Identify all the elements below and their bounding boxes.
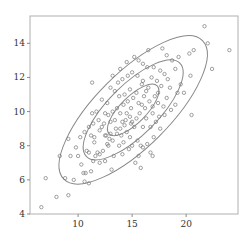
data-point <box>144 89 147 92</box>
data-point <box>128 88 131 91</box>
data-point <box>140 103 143 106</box>
data-point <box>177 55 180 58</box>
data-point <box>165 54 168 57</box>
data-point <box>69 154 72 157</box>
data-point <box>130 71 133 74</box>
data-point <box>141 79 144 82</box>
data-point <box>124 118 127 121</box>
y-tick-label: 8 <box>19 141 25 151</box>
data-point <box>121 120 124 123</box>
y-tick-label: 12 <box>14 72 25 82</box>
data-point <box>117 144 120 147</box>
data-point <box>188 52 191 55</box>
data-point <box>141 62 144 65</box>
data-point <box>135 91 138 94</box>
data-point <box>138 112 141 115</box>
data-point <box>113 118 116 121</box>
data-point <box>174 103 177 106</box>
data-point <box>129 106 132 109</box>
data-point <box>159 69 162 72</box>
data-point <box>190 113 193 116</box>
data-point <box>155 79 158 82</box>
data-point <box>121 153 124 156</box>
data-point <box>192 48 195 51</box>
data-point <box>98 161 101 164</box>
y-axis: 468101214 <box>14 38 30 219</box>
data-point <box>149 151 152 154</box>
data-point <box>122 103 125 106</box>
data-point <box>122 141 125 144</box>
data-point <box>130 144 133 147</box>
data-point <box>108 137 111 140</box>
data-point <box>119 67 122 70</box>
data-point <box>111 74 114 77</box>
data-point <box>152 135 155 138</box>
data-point <box>100 125 103 128</box>
data-point <box>74 146 77 149</box>
data-point <box>92 122 95 125</box>
data-point <box>103 112 106 115</box>
plot-frame <box>30 16 238 214</box>
data-point <box>123 124 126 127</box>
data-point <box>141 125 144 128</box>
data-point <box>169 108 172 111</box>
data-point <box>111 139 114 142</box>
data-point <box>203 25 206 28</box>
data-point <box>90 81 93 84</box>
x-axis: 101520 <box>72 214 192 229</box>
y-tick-label: 6 <box>19 175 25 185</box>
data-point <box>67 137 70 140</box>
data-points <box>40 25 231 209</box>
data-point <box>121 77 124 80</box>
data-point <box>44 176 47 179</box>
y-tick-label: 4 <box>19 209 25 219</box>
data-point <box>143 106 146 109</box>
data-point <box>206 42 209 45</box>
data-point <box>135 117 138 120</box>
scatter-chart: 468101214 101520 <box>0 0 252 240</box>
data-point <box>117 95 120 98</box>
data-point <box>103 159 106 162</box>
data-point <box>93 141 96 144</box>
x-tick-label: 10 <box>72 219 84 229</box>
data-point <box>89 134 92 137</box>
data-point <box>163 72 166 75</box>
data-point <box>146 142 149 145</box>
data-point <box>90 112 93 115</box>
data-point <box>150 76 153 79</box>
data-point <box>153 95 156 98</box>
data-point <box>137 101 140 104</box>
data-point <box>161 47 164 50</box>
data-point <box>160 84 163 87</box>
data-point <box>182 91 185 94</box>
data-point <box>84 171 87 174</box>
data-point <box>93 135 96 138</box>
data-point <box>72 178 75 181</box>
y-tick-label: 14 <box>14 38 26 48</box>
data-point <box>139 166 142 169</box>
data-point <box>128 115 131 118</box>
data-point <box>159 127 162 130</box>
data-point <box>127 147 130 150</box>
data-point <box>151 154 154 157</box>
data-point <box>144 117 147 120</box>
data-point <box>76 154 79 157</box>
data-point <box>210 67 213 70</box>
data-point <box>116 81 119 84</box>
data-point <box>119 112 122 115</box>
data-point <box>107 113 110 116</box>
data-point <box>133 55 136 58</box>
data-point <box>111 110 114 113</box>
data-point <box>140 83 143 86</box>
data-point <box>102 122 105 125</box>
data-point <box>166 77 169 80</box>
data-point <box>80 163 83 166</box>
data-point <box>142 95 145 98</box>
data-point <box>40 205 43 208</box>
data-point <box>131 96 134 99</box>
data-point <box>110 168 113 171</box>
contour-ellipse-2 <box>69 46 198 175</box>
data-point <box>98 129 101 132</box>
data-point <box>156 101 159 104</box>
data-point <box>55 195 58 198</box>
